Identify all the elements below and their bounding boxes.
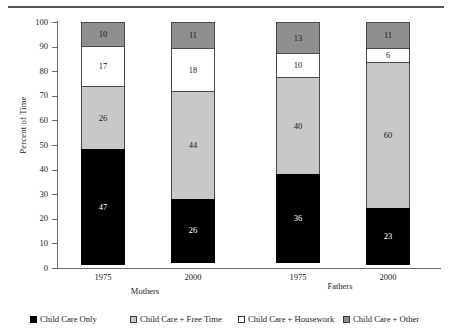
y-axis-tick-mark xyxy=(52,22,57,23)
bar-column[interactable]: 13104036 xyxy=(276,22,320,268)
y-axis-tick-mark xyxy=(52,219,57,220)
y-axis-tick-mark xyxy=(52,145,57,146)
legend-swatch-icon xyxy=(238,316,245,323)
bar-segment[interactable]: 40 xyxy=(276,77,320,175)
bar-segment[interactable]: 11 xyxy=(366,22,410,49)
y-axis-tick-label: 100 xyxy=(20,18,48,27)
y-axis-tick-label: 70 xyxy=(20,91,48,100)
bar-segment[interactable]: 36 xyxy=(276,174,320,263)
bar-segment[interactable]: 44 xyxy=(171,91,215,199)
legend-item[interactable]: Child Care + Other xyxy=(343,314,419,324)
legend-item-label: Child Care + Housework xyxy=(248,314,334,324)
x-axis-line xyxy=(57,268,441,269)
y-axis-tick-mark xyxy=(52,47,57,48)
bar-column[interactable]: 1166023 xyxy=(366,22,410,268)
y-axis-tick-mark xyxy=(52,120,57,121)
y-axis-tick-label: 50 xyxy=(20,141,48,150)
y-axis-tick-mark xyxy=(52,243,57,244)
legend-item[interactable]: Child Care Only xyxy=(30,314,97,324)
y-axis-tick-mark xyxy=(52,194,57,195)
x-axis-tick-label: 1975 xyxy=(73,272,133,282)
y-axis-tick-mark xyxy=(52,96,57,97)
header-divider-rule xyxy=(8,6,444,8)
chart-legend: Child Care OnlyChild Care + Free TimeChi… xyxy=(0,312,451,328)
bar-segment[interactable]: 17 xyxy=(81,46,125,88)
bar-segment[interactable]: 6 xyxy=(366,48,410,63)
y-axis-tick-mark xyxy=(52,170,57,171)
legend-item-label: Child Care + Free Time xyxy=(140,314,222,324)
plot-area: 1017264711184426131040361166023 xyxy=(58,22,441,268)
legend-swatch-icon xyxy=(30,316,37,323)
legend-swatch-icon xyxy=(343,316,350,323)
y-axis-tick-label: 0 xyxy=(20,264,48,273)
legend-item-label: Child Care + Other xyxy=(353,314,419,324)
bar-column[interactable]: 11184426 xyxy=(171,22,215,268)
x-axis-group-label: Fathers xyxy=(305,281,375,291)
stacked-bar-chart-figure: Percent of Time 1009080706050403020100 1… xyxy=(0,0,451,332)
bar-segment[interactable]: 26 xyxy=(171,199,215,263)
y-axis-tick-mark xyxy=(52,268,57,269)
bar-column[interactable]: 10172647 xyxy=(81,22,125,268)
bar-segment[interactable]: 23 xyxy=(366,208,410,265)
y-axis-tick-label: 60 xyxy=(20,116,48,125)
bar-segment[interactable]: 18 xyxy=(171,48,215,92)
y-axis-tick-label: 40 xyxy=(20,165,48,174)
y-axis-tick-label: 80 xyxy=(20,67,48,76)
y-axis-tick-label: 20 xyxy=(20,214,48,223)
legend-item-label: Child Care Only xyxy=(40,314,97,324)
y-axis-tick-label: 10 xyxy=(20,239,48,248)
y-axis-tick-label: 30 xyxy=(20,190,48,199)
legend-swatch-icon xyxy=(130,316,137,323)
bar-segment[interactable]: 60 xyxy=(366,62,410,210)
bar-segment[interactable]: 11 xyxy=(171,22,215,49)
bar-segment[interactable]: 26 xyxy=(81,86,125,150)
bar-segment[interactable]: 47 xyxy=(81,149,125,265)
bar-segment[interactable]: 13 xyxy=(276,22,320,54)
bar-segment[interactable]: 10 xyxy=(276,53,320,78)
x-axis-group-label: Mothers xyxy=(110,286,180,296)
x-axis-tick-label: 2000 xyxy=(163,272,223,282)
y-axis-tick-label: 90 xyxy=(20,42,48,51)
legend-item[interactable]: Child Care + Housework xyxy=(238,314,334,324)
bar-segment[interactable]: 10 xyxy=(81,22,125,47)
y-axis-tick-mark xyxy=(52,71,57,72)
legend-item[interactable]: Child Care + Free Time xyxy=(130,314,222,324)
